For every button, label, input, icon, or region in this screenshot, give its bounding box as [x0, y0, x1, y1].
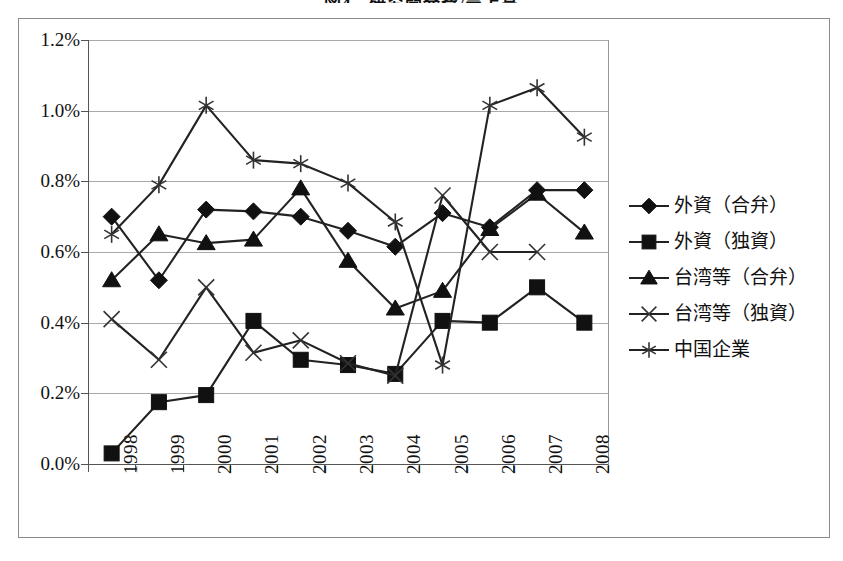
x-axis-tick-label: 2006 — [499, 434, 518, 474]
x-axis-tick-label: 2001 — [262, 434, 281, 474]
gridline — [88, 181, 609, 182]
gridline — [88, 393, 609, 394]
figure-root: 図4 研究開発費/売上高 1.2%1.0%0.8%0.6%0.4%0.2%0.0… — [0, 0, 843, 561]
y-axis-tick-label: 0.2% — [14, 383, 80, 402]
legend-marker-x-icon — [628, 302, 670, 326]
x-axis-tick-label: 2008 — [593, 434, 612, 474]
legend-label: 外資（独資） — [670, 231, 788, 253]
y-axis-tick — [81, 111, 88, 112]
gridline — [88, 40, 609, 41]
gridline — [88, 111, 609, 112]
y-axis-tick-label: 0.6% — [14, 242, 80, 261]
x-axis-tick-label: 1999 — [168, 434, 187, 474]
legend-marker-asterisk-icon — [628, 338, 670, 362]
legend-label: 台湾等（独資） — [670, 303, 807, 325]
y-axis-tick — [81, 464, 88, 465]
legend-marker-triangle-icon — [628, 266, 670, 290]
y-axis-tick-label: 0.8% — [14, 171, 80, 190]
x-axis-tick — [88, 465, 89, 472]
x-axis-tick-label: 2004 — [404, 434, 423, 474]
y-axis-tick — [81, 40, 88, 41]
y-axis-tick — [81, 252, 88, 253]
x-axis-tick-label: 1998 — [121, 434, 140, 474]
legend-item: 台湾等（独資） — [628, 296, 828, 332]
y-axis-tick-label: 0.0% — [14, 454, 80, 473]
plot-right-border — [608, 40, 609, 465]
chart-legend: 外資（合弁）外資（独資）台湾等（合弁）台湾等（独資）中国企業 — [628, 188, 828, 368]
x-axis-tick-label: 2005 — [452, 434, 471, 474]
y-axis-labels: 1.2%1.0%0.8%0.6%0.4%0.2%0.0% — [8, 0, 80, 561]
legend-item: 中国企業 — [628, 332, 828, 368]
x-axis-tick-label: 2007 — [546, 434, 565, 474]
x-axis-tick-label: 2003 — [357, 434, 376, 474]
x-axis-tick-label: 2002 — [310, 434, 329, 474]
gridline — [88, 323, 609, 324]
legend-label: 外資（合弁） — [670, 195, 788, 217]
gridline — [88, 252, 609, 253]
legend-marker-diamond-icon — [628, 194, 670, 218]
y-axis-tick — [81, 181, 88, 182]
y-axis-tick-label: 1.2% — [14, 30, 80, 49]
legend-label: 台湾等（合弁） — [670, 267, 807, 289]
y-axis-tick-label: 1.0% — [14, 101, 80, 120]
legend-marker-square-icon — [628, 230, 670, 254]
legend-item: 外資（合弁） — [628, 188, 828, 224]
legend-item: 外資（独資） — [628, 224, 828, 260]
x-axis-tick-label: 2000 — [215, 434, 234, 474]
legend-item: 台湾等（合弁） — [628, 260, 828, 296]
y-axis-line — [88, 40, 89, 465]
legend-label: 中国企業 — [670, 339, 750, 361]
y-axis-tick — [81, 393, 88, 394]
data-point-diamond — [641, 198, 657, 214]
y-axis-tick-label: 0.4% — [14, 313, 80, 332]
y-axis-tick — [81, 323, 88, 324]
data-point-square — [642, 235, 656, 249]
chart-title: 図4 研究開発費/売上高 — [0, 0, 843, 3]
